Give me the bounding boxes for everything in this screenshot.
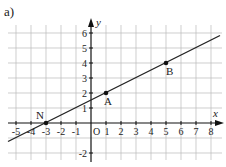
y-axis-arrow-icon	[88, 18, 94, 27]
grid	[8, 25, 222, 160]
x-axis-label: x	[212, 107, 218, 119]
y-tick-label: -2	[79, 148, 87, 159]
x-tick-label: 8	[209, 126, 214, 137]
point-a-label: A	[104, 95, 112, 107]
x-tick-label: 4	[149, 126, 154, 137]
y-tick-label: 2	[82, 88, 87, 99]
y-axis-label: y	[95, 16, 101, 28]
x-tick-label: 6	[179, 126, 184, 137]
x-axis-arrow-icon	[215, 120, 224, 126]
x-tick-label: 2	[119, 126, 124, 137]
x-tick-label: 5	[164, 126, 169, 137]
x-tick-label: 1	[105, 126, 110, 137]
coordinate-plane-figure: a)	[0, 0, 226, 167]
point-n-marker	[44, 121, 49, 126]
x-tick-label: -1	[72, 126, 80, 137]
y-tick-label: 3	[82, 73, 87, 84]
origin-label: O	[93, 126, 100, 137]
plotted-line	[8, 36, 220, 142]
y-tick-label: 6	[82, 28, 87, 39]
point-n-label: N	[36, 109, 44, 121]
x-tick-labels: -5 -4 -3 -2 -1 1 2 3 4 5 6 7 8	[12, 126, 214, 137]
y-tick-label: 4	[82, 58, 87, 69]
x-tick-label: -3	[42, 126, 50, 137]
y-tick-label: 5	[82, 43, 87, 54]
point-b-label: B	[166, 65, 173, 77]
x-tick-label: 3	[134, 126, 139, 137]
x-tick-label: 7	[194, 126, 199, 137]
figure-label: a)	[4, 4, 14, 19]
x-tick-label: -2	[57, 126, 65, 137]
